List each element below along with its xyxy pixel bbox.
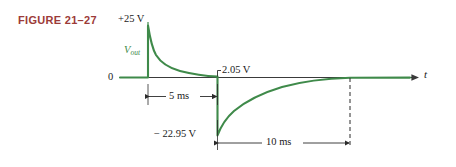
peak-negative-label: − 22.95 V [154,128,196,139]
waveform-plot [0,0,456,167]
output-voltage-waveform [120,26,410,136]
figure-container: FIGURE 21–27 [0,0,456,167]
signal-name-label: Vout [124,44,140,57]
mid-value-label: 2.05 V [222,64,250,75]
dimension-label-10ms: 10 ms [266,136,291,147]
origin-label: 0 [108,71,113,82]
x-axis-label: t [424,68,427,80]
peak-positive-label: +25 V [118,13,144,24]
signal-subscript-text: out [130,48,140,57]
dimension-label-5ms: 5 ms [169,90,189,101]
